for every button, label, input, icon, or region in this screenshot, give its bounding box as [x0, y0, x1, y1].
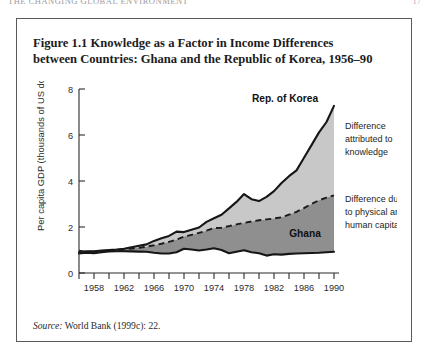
y-tick-4: 4 — [68, 177, 73, 187]
x-tick-1978: 1978 — [234, 283, 254, 293]
page-number: 17 — [413, 0, 422, 6]
knowledge-annot-line-1: Difference — [345, 121, 386, 131]
x-tick-1962: 1962 — [114, 283, 134, 293]
figure-title: Figure 1.1 Knowledge as a Factor in Inco… — [33, 35, 393, 67]
y-axis-tick-labels: 0 2 4 6 8 — [68, 85, 73, 279]
x-axis-ticks — [79, 273, 334, 279]
y-tick-0: 0 — [68, 269, 73, 279]
knowledge-annot-line-3: knowledge — [345, 147, 388, 157]
capital-difference-annotation: Difference due to physical and human cap… — [345, 194, 397, 230]
korea-series-label: Rep. of Korea — [252, 93, 319, 104]
y-tick-8: 8 — [68, 85, 73, 95]
y-axis-ticks — [79, 89, 85, 273]
source-text: World Bank (1999c): 22. — [62, 320, 160, 331]
figure-box: Figure 1.1 Knowledge as a Factor in Inco… — [16, 18, 412, 342]
capital-annot-line-3: human capital — [345, 220, 397, 230]
ghana-series-label: Ghana — [289, 228, 321, 239]
running-head-title: The Changing Global Environment — [8, 0, 188, 6]
source-prefix: Source: — [33, 320, 62, 331]
x-tick-1990: 1990 — [324, 283, 344, 293]
capital-annot-line-1: Difference due — [345, 194, 397, 204]
y-tick-2: 2 — [68, 223, 73, 233]
x-tick-1974: 1974 — [204, 283, 224, 293]
figure-title-line-1: Figure 1.1 Knowledge as a Factor in Inco… — [33, 36, 333, 50]
x-tick-1966: 1966 — [144, 283, 164, 293]
y-tick-6: 6 — [68, 131, 73, 141]
x-axis-tick-labels: 1958 1962 1966 1970 1974 1978 1982 1986 … — [84, 283, 344, 293]
page-running-head: The Changing Global Environment 17 — [0, 0, 431, 14]
income-differences-area-chart: Per capita GDP (thousands of US dollars) — [33, 81, 397, 307]
x-tick-1986: 1986 — [294, 283, 314, 293]
x-tick-1958: 1958 — [84, 283, 104, 293]
capital-annot-line-2: to physical and — [345, 207, 397, 217]
x-tick-1970: 1970 — [174, 283, 194, 293]
chart-area: Per capita GDP (thousands of US dollars) — [33, 81, 397, 307]
knowledge-difference-annotation: Difference attributed to knowledge — [345, 121, 393, 157]
figure-title-line-2: between Countries: Ghana and the Republi… — [33, 52, 372, 66]
figure-source: Source: World Bank (1999c): 22. — [33, 320, 160, 331]
knowledge-annot-line-2: attributed to — [345, 134, 393, 144]
x-tick-1982: 1982 — [264, 283, 284, 293]
y-axis-label: Per capita GDP (thousands of US dollars) — [35, 81, 46, 231]
